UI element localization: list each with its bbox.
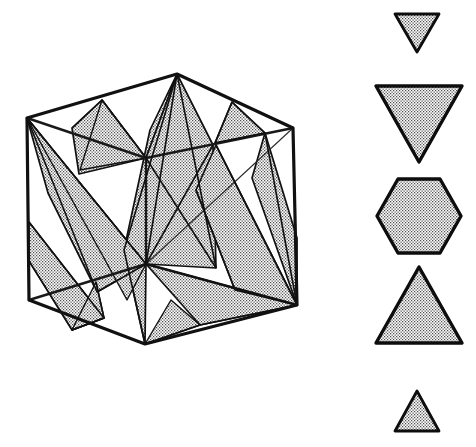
cube-cross-section-figure bbox=[0, 0, 476, 447]
figure-root bbox=[0, 0, 476, 447]
